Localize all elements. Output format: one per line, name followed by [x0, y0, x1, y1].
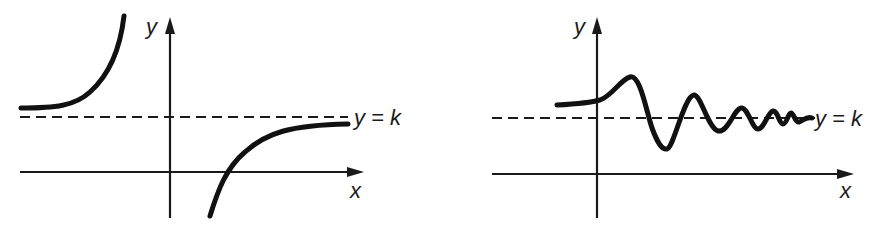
left-x-axis-label: x	[349, 178, 362, 203]
asymptote-figure: y x y = k y x y = k	[0, 0, 887, 229]
right-curve-damped-oscillation	[557, 77, 812, 149]
right-x-axis-label: x	[839, 178, 852, 203]
left-x-axis-arrow-icon	[347, 167, 364, 177]
left-asymptote-label: y = k	[352, 105, 402, 130]
left-curve-lower-branch	[210, 124, 348, 216]
right-y-axis-label: y	[572, 14, 587, 39]
left-panel: y x y = k	[20, 14, 402, 218]
right-y-axis-arrow-icon	[592, 17, 602, 34]
right-panel: y x y = k	[492, 14, 863, 218]
left-y-axis-arrow-icon	[165, 17, 175, 34]
right-asymptote-label: y = k	[813, 106, 863, 131]
left-curve-upper-branch	[21, 16, 124, 108]
left-y-axis-label: y	[144, 14, 159, 39]
